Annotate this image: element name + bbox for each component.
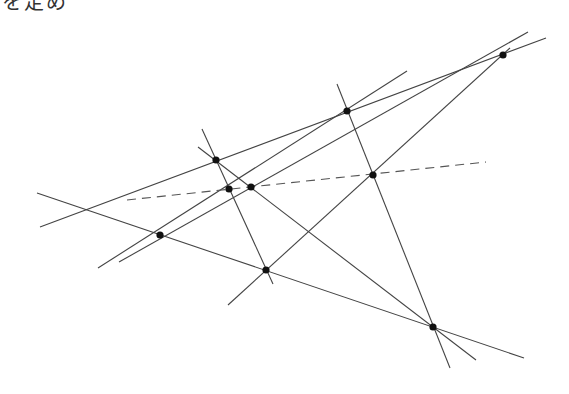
point-P7	[156, 231, 163, 238]
point-P6	[499, 51, 506, 58]
point-P3	[247, 183, 254, 190]
point-P8	[262, 266, 269, 273]
line-B	[40, 38, 546, 227]
point-P9	[429, 323, 436, 330]
line-D	[119, 32, 528, 262]
point-P5	[369, 171, 376, 178]
geometry-diagram	[0, 0, 569, 394]
point-P4	[343, 107, 350, 114]
line-A	[37, 193, 524, 358]
lines-layer	[37, 32, 546, 368]
dashed-line-L	[127, 162, 486, 200]
point-P1	[212, 156, 219, 163]
point-P2	[225, 185, 232, 192]
